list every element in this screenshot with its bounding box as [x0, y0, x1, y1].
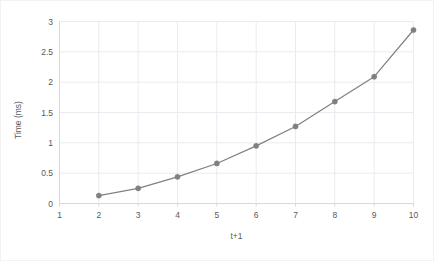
x-axis-tick-label: 2: [96, 211, 101, 220]
y-axis-title: Time (ms): [14, 101, 23, 139]
data-point-marker: [332, 99, 337, 104]
data-point-marker: [411, 27, 416, 32]
x-axis-tick-label: 5: [214, 211, 219, 220]
data-point-marker: [136, 186, 141, 191]
x-axis-tick-label: 1: [57, 211, 62, 220]
y-axis-tick-label: 0.5: [21, 169, 53, 178]
x-axis-tick-label: 4: [175, 211, 180, 220]
data-point-marker: [293, 124, 298, 129]
data-point-marker: [214, 161, 219, 166]
data-point-marker: [254, 143, 259, 148]
x-axis-title: t+1: [230, 232, 242, 241]
y-axis-tick-label: 0: [21, 199, 53, 208]
axis-lines: [60, 22, 414, 207]
y-axis-tick-label: 1: [21, 139, 53, 148]
x-axis-tick-label: 6: [254, 211, 259, 220]
x-axis-tick-label: 3: [136, 211, 141, 220]
data-point-marker: [372, 74, 377, 79]
y-axis-tick-label: 3: [21, 17, 53, 26]
x-axis-tick-label: 7: [293, 211, 298, 220]
chart-container: 00.511.522.53 12345678910 Time (ms) t+1: [0, 0, 434, 261]
y-axis-tick-label: 2: [21, 78, 53, 87]
x-axis-tick-label: 9: [372, 211, 377, 220]
x-axis-tick-label: 8: [332, 211, 337, 220]
y-axis-tick-label: 2.5: [21, 48, 53, 57]
plot-area: [1, 1, 434, 261]
y-axis-tick-label: 1.5: [21, 108, 53, 117]
horizontal-gridlines: [60, 22, 414, 174]
data-point-marker: [175, 174, 180, 179]
data-point-marker: [96, 193, 101, 198]
x-axis-tick-label: 10: [409, 211, 418, 220]
